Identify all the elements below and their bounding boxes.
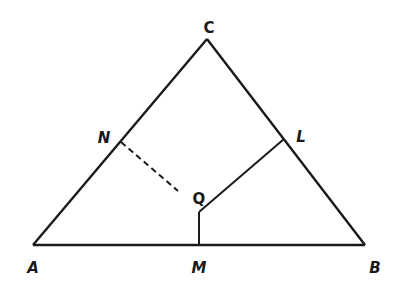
label-m: M xyxy=(192,259,207,277)
label-q: Q xyxy=(193,190,206,208)
label-l: L xyxy=(296,128,306,146)
segment-ca xyxy=(33,39,207,245)
segment-nq-dashed xyxy=(121,142,178,191)
label-n: N xyxy=(98,129,111,147)
triangle-diagram: C N L Q A M B xyxy=(0,0,398,291)
label-c: C xyxy=(203,19,214,37)
segment-ql xyxy=(199,139,284,212)
label-a: A xyxy=(26,259,39,277)
label-b: B xyxy=(369,259,380,277)
segment-bc xyxy=(207,39,365,245)
